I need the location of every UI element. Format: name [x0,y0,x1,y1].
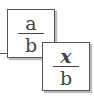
fraction-x-over-b[interactable]: x b [42,42,90,91]
numerator: a [25,14,36,32]
numerator: x [60,47,71,65]
denominator: b [25,36,37,54]
denominator: b [60,69,72,87]
